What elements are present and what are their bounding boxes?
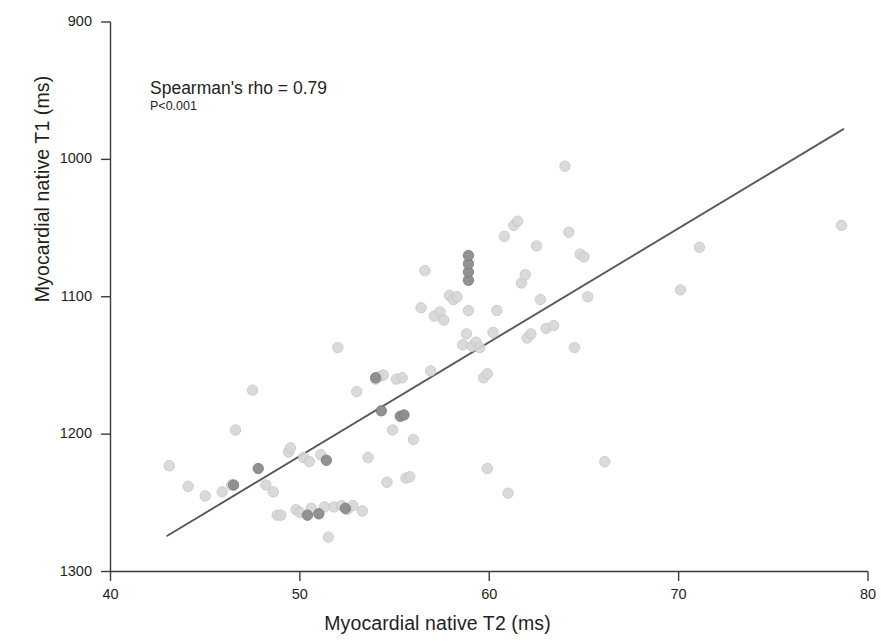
spearman-rho-label: Spearman's rho = 0.79 [150, 78, 327, 98]
scatter-point [376, 406, 386, 416]
statistics-annotation: Spearman's rho = 0.79 P<0.001 [150, 78, 327, 114]
scatter-point [340, 503, 350, 513]
p-value-label: P<0.001 [150, 100, 327, 114]
scatter-point [492, 305, 502, 315]
x-tick-label: 50 [280, 586, 320, 602]
scatter-point [302, 510, 312, 520]
scatter-point [405, 472, 415, 482]
scatter-point [200, 491, 210, 501]
scatter-point [520, 270, 530, 280]
scatter-point [583, 292, 593, 302]
y-tick-label: 1100 [46, 288, 92, 304]
regression-line-path [167, 129, 843, 536]
x-tick-label: 70 [659, 586, 699, 602]
y-axis-title-container: Myocardial native T1 (ms) [31, 0, 59, 389]
scatter-point [253, 463, 263, 473]
scatter-point [333, 342, 343, 352]
y-tick-label: 1200 [46, 425, 92, 441]
x-tick-label: 80 [848, 586, 881, 602]
scatter-point [425, 366, 435, 376]
scatter-point [439, 315, 449, 325]
scatter-point [475, 342, 485, 352]
scatter-point [276, 510, 286, 520]
scatter-point [488, 327, 498, 337]
y-tick-label: 1000 [46, 150, 92, 166]
y-tick-label: 900 [46, 13, 92, 29]
y-axis-ticks [101, 22, 111, 572]
scatter-point [183, 481, 193, 491]
scatter-point [416, 303, 426, 313]
regression-line [167, 129, 843, 536]
scatter-point [694, 242, 704, 252]
scatter-point [408, 434, 418, 444]
scatter-point [382, 477, 392, 487]
scatter-point [482, 368, 492, 378]
scatter-point [452, 292, 462, 302]
scatter-point [230, 425, 240, 435]
scatter-point [351, 386, 361, 396]
scatter-point [217, 487, 227, 497]
data-points [164, 161, 847, 542]
scatter-point [357, 506, 367, 516]
scatter-point [228, 480, 238, 490]
scatter-point [569, 342, 579, 352]
x-tick-label: 40 [91, 586, 131, 602]
scatter-point [579, 252, 589, 262]
scatter-point [482, 463, 492, 473]
scatter-point [304, 456, 314, 466]
scatter-point [363, 452, 373, 462]
y-tick-label: 1300 [46, 563, 92, 579]
scatter-point [314, 509, 324, 519]
scatter-point [387, 425, 397, 435]
scatter-point [836, 220, 846, 230]
scatter-point [560, 161, 570, 171]
scatter-point [323, 532, 333, 542]
scatter-point [535, 294, 545, 304]
scatter-point [531, 241, 541, 251]
scatter-point [564, 227, 574, 237]
scatter-point [321, 455, 331, 465]
scatter-point [463, 250, 473, 260]
scatter-point [499, 231, 509, 241]
scatter-point [548, 320, 558, 330]
scatter-point [512, 216, 522, 226]
scatter-point [526, 329, 536, 339]
scatter-point [420, 265, 430, 275]
scatter-point [503, 488, 513, 498]
x-tick-label: 60 [469, 586, 509, 602]
y-axis-title: Myocardial native T1 (ms) [31, 0, 54, 389]
scatter-point [164, 461, 174, 471]
scatter-point [399, 410, 409, 420]
scatter-point [247, 385, 257, 395]
scatter-point [370, 373, 380, 383]
x-axis-ticks [111, 572, 869, 582]
scatter-point [458, 340, 468, 350]
scatter-point [600, 456, 610, 466]
x-axis-title: Myocardial native T2 (ms) [0, 612, 875, 635]
scatter-point [675, 285, 685, 295]
scatter-point [461, 329, 471, 339]
scatter-point [268, 487, 278, 497]
scatter-point [463, 305, 473, 315]
scatter-point [285, 443, 295, 453]
scatter-point [397, 373, 407, 383]
